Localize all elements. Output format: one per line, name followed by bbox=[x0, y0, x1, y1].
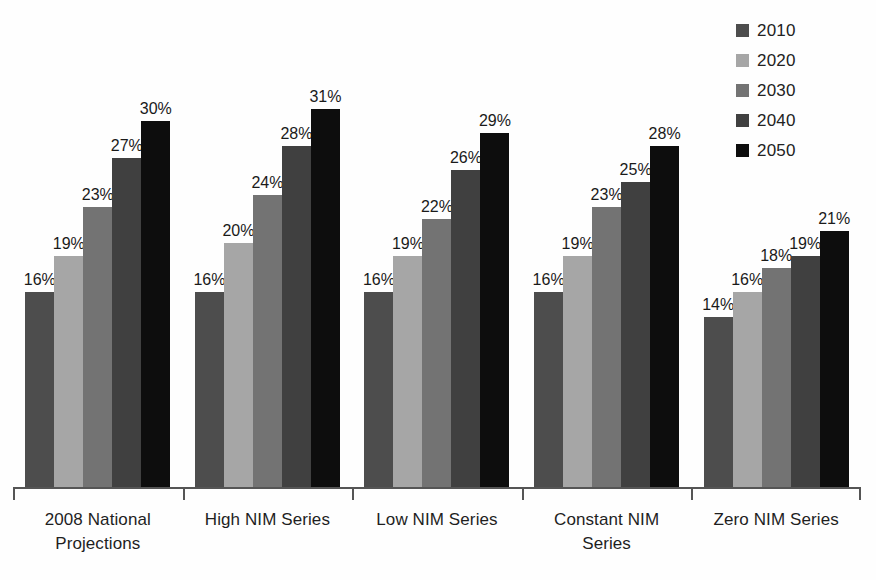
x-axis-label-line: Constant NIM bbox=[522, 508, 692, 532]
legend-item-label: 2010 bbox=[757, 22, 796, 39]
x-axis-tick bbox=[352, 487, 354, 500]
bar-rect bbox=[393, 256, 422, 488]
bar-rect bbox=[563, 256, 592, 488]
bar-rect bbox=[534, 292, 563, 488]
bar-value-label: 29% bbox=[479, 113, 511, 129]
bar-rect bbox=[282, 146, 311, 488]
bar-high-nim-series-2020[interactable]: 20% bbox=[224, 60, 253, 488]
bar-rect bbox=[25, 292, 54, 488]
bar-rect bbox=[141, 121, 170, 488]
x-axis-line bbox=[13, 487, 861, 489]
bar-group: 16%20%24%28%31% bbox=[183, 60, 353, 488]
bar-value-label: 16% bbox=[24, 272, 56, 288]
x-axis-tick bbox=[13, 487, 15, 500]
bar-low-nim-series-2050[interactable]: 29% bbox=[480, 60, 509, 488]
bar-rect bbox=[791, 256, 820, 488]
bar-low-nim-series-2010[interactable]: 16% bbox=[364, 60, 393, 488]
x-axis-tick bbox=[691, 487, 693, 500]
bar-value-label: 28% bbox=[649, 126, 681, 142]
bar-value-label: 21% bbox=[818, 211, 850, 227]
bar-rect bbox=[451, 170, 480, 488]
bar-value-label: 31% bbox=[309, 89, 341, 105]
bar-high-nim-series-2040[interactable]: 28% bbox=[282, 60, 311, 488]
legend-item-2010[interactable]: 2010 bbox=[736, 22, 856, 38]
bar-rect bbox=[224, 243, 253, 488]
bar-group-bars: 16%20%24%28%31% bbox=[183, 60, 353, 488]
bar-rect bbox=[83, 207, 112, 488]
bar-chart: 20102020203020402050 16%19%23%27%30%16%2… bbox=[0, 0, 876, 580]
bar-group: 16%19%22%26%29% bbox=[352, 60, 522, 488]
bar-high-nim-series-2050[interactable]: 31% bbox=[311, 60, 340, 488]
bar-high-nim-series-2030[interactable]: 24% bbox=[253, 60, 282, 488]
x-axis-label-line: Low NIM Series bbox=[352, 508, 522, 532]
bar-group-bars: 16%19%23%27%30% bbox=[13, 60, 183, 488]
bar-2008-national-projections-2050[interactable]: 30% bbox=[141, 60, 170, 488]
bar-value-label: 26% bbox=[450, 150, 482, 166]
plot-area: 16%19%23%27%30%16%20%24%28%31%16%19%22%2… bbox=[13, 60, 861, 488]
bar-constant-nim-series-2030[interactable]: 23% bbox=[592, 60, 621, 488]
bar-rect bbox=[820, 231, 849, 488]
bar-value-label: 18% bbox=[760, 248, 792, 264]
bar-rect bbox=[112, 158, 141, 488]
bar-zero-nim-series-2050[interactable]: 21% bbox=[820, 60, 849, 488]
bar-group-bars: 16%19%22%26%29% bbox=[352, 60, 522, 488]
bar-2008-national-projections-2020[interactable]: 19% bbox=[54, 60, 83, 488]
x-axis-tick bbox=[183, 487, 185, 500]
bar-high-nim-series-2010[interactable]: 16% bbox=[195, 60, 224, 488]
bar-value-label: 16% bbox=[193, 272, 225, 288]
bar-rect bbox=[311, 109, 340, 488]
bar-value-label: 25% bbox=[620, 162, 652, 178]
bar-value-label: 22% bbox=[421, 199, 453, 215]
bar-group: 16%19%23%27%30% bbox=[13, 60, 183, 488]
bar-value-label: 27% bbox=[111, 138, 143, 154]
bar-constant-nim-series-2040[interactable]: 25% bbox=[621, 60, 650, 488]
bar-zero-nim-series-2040[interactable]: 19% bbox=[791, 60, 820, 488]
bar-rect bbox=[364, 292, 393, 488]
bar-value-label: 19% bbox=[53, 236, 85, 252]
bar-constant-nim-series-2020[interactable]: 19% bbox=[563, 60, 592, 488]
bar-value-label: 23% bbox=[591, 187, 623, 203]
bar-constant-nim-series-2010[interactable]: 16% bbox=[534, 60, 563, 488]
legend-swatch-icon bbox=[736, 24, 749, 37]
x-axis-label: High NIM Series bbox=[183, 508, 353, 532]
bar-zero-nim-series-2010[interactable]: 14% bbox=[704, 60, 733, 488]
bar-constant-nim-series-2050[interactable]: 28% bbox=[650, 60, 679, 488]
bar-rect bbox=[733, 292, 762, 488]
bar-value-label: 19% bbox=[392, 236, 424, 252]
bar-value-label: 16% bbox=[363, 272, 395, 288]
bar-value-label: 16% bbox=[533, 272, 565, 288]
bar-rect bbox=[480, 133, 509, 488]
bar-rect bbox=[650, 146, 679, 488]
bar-rect bbox=[704, 317, 733, 488]
x-axis-label-line: 2008 National bbox=[13, 508, 183, 532]
x-axis-labels: 2008 NationalProjectionsHigh NIM SeriesL… bbox=[13, 508, 861, 568]
bar-rect bbox=[253, 195, 282, 488]
bar-zero-nim-series-2030[interactable]: 18% bbox=[762, 60, 791, 488]
bar-value-label: 14% bbox=[702, 297, 734, 313]
bar-group: 16%19%23%25%28% bbox=[522, 60, 692, 488]
x-axis bbox=[13, 487, 861, 501]
bar-2008-national-projections-2010[interactable]: 16% bbox=[25, 60, 54, 488]
bar-rect bbox=[621, 182, 650, 488]
bar-2008-national-projections-2040[interactable]: 27% bbox=[112, 60, 141, 488]
bar-rect bbox=[422, 219, 451, 488]
x-axis-label-line: Zero NIM Series bbox=[691, 508, 861, 532]
bar-value-label: 16% bbox=[731, 272, 763, 288]
bar-group: 14%16%18%19%21% bbox=[691, 60, 861, 488]
x-axis-label: Low NIM Series bbox=[352, 508, 522, 532]
x-axis-label-line: Projections bbox=[13, 532, 183, 556]
bar-rect bbox=[762, 268, 791, 488]
bar-rect bbox=[195, 292, 224, 488]
bar-group-bars: 14%16%18%19%21% bbox=[691, 60, 861, 488]
bar-2008-national-projections-2030[interactable]: 23% bbox=[83, 60, 112, 488]
x-axis-tick bbox=[522, 487, 524, 500]
bar-zero-nim-series-2020[interactable]: 16% bbox=[733, 60, 762, 488]
bar-low-nim-series-2030[interactable]: 22% bbox=[422, 60, 451, 488]
bar-value-label: 20% bbox=[222, 223, 254, 239]
bar-low-nim-series-2040[interactable]: 26% bbox=[451, 60, 480, 488]
x-axis-label: Constant NIMSeries bbox=[522, 508, 692, 556]
x-axis-label-line: High NIM Series bbox=[183, 508, 353, 532]
bar-low-nim-series-2020[interactable]: 19% bbox=[393, 60, 422, 488]
x-axis-label: Zero NIM Series bbox=[691, 508, 861, 532]
bar-value-label: 24% bbox=[251, 175, 283, 191]
